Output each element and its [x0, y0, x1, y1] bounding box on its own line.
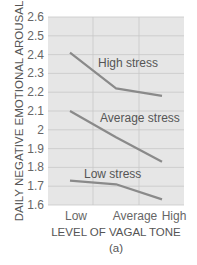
y-tick-label: 1.8 — [27, 160, 44, 174]
x-tick-label: Low — [65, 209, 87, 223]
x-axis-ticks: LowAverageHigh — [65, 209, 186, 223]
figure-caption: (a) — [109, 242, 123, 254]
line-chart: 2.62.52.42.32.22.121.91.81.71.6 LowAvera… — [0, 0, 197, 265]
y-tick-label: 2 — [37, 123, 44, 137]
y-axis-title: DAILY NEGATIVE EMOTIONAL AROUSAL — [13, 0, 25, 221]
y-tick-label: 1.6 — [27, 198, 44, 212]
x-tick-label: High — [162, 209, 187, 223]
y-tick-label: 2.6 — [27, 10, 44, 24]
y-tick-label: 2.3 — [27, 66, 44, 80]
y-tick-label: 1.9 — [27, 142, 44, 156]
y-tick-label: 2.4 — [27, 48, 44, 62]
series-label: High stress — [98, 56, 158, 70]
series-label: Low stress — [84, 167, 141, 181]
y-tick-label: 2.5 — [27, 29, 44, 43]
y-tick-label: 2.1 — [27, 104, 44, 118]
x-axis-title: LEVEL OF VAGAL TONE — [51, 226, 181, 238]
series-label: Average stress — [100, 111, 180, 125]
x-tick-label: Average — [113, 209, 158, 223]
y-axis-ticks: 2.62.52.42.32.22.121.91.81.71.6 — [27, 10, 44, 212]
y-tick-label: 1.7 — [27, 179, 44, 193]
y-tick-label: 2.2 — [27, 85, 44, 99]
